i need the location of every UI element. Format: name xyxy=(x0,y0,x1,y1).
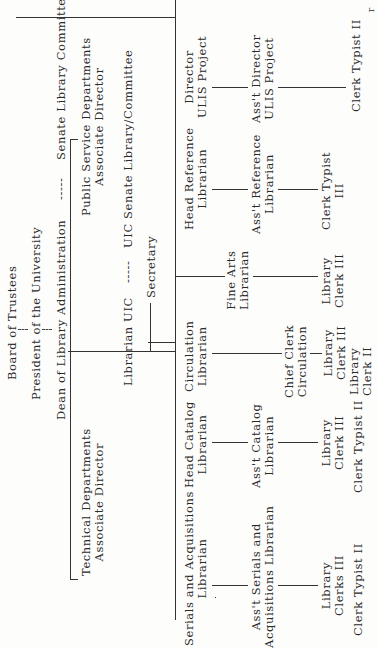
node-secretary: Secretary xyxy=(145,236,158,298)
circulation-line-2: Librarian xyxy=(196,320,209,392)
connector-serials-to-asst xyxy=(212,585,248,586)
org-chart-rotated-canvas: Board of Trustees President of the Unive… xyxy=(0,0,378,648)
node-circ-library-clerk-3: Library Clerk III xyxy=(322,326,348,380)
node-director-ulis: Director ULIS Project xyxy=(183,36,209,118)
node-uic-senate-library-committee: UIC Senate Library/Committee xyxy=(122,50,135,248)
connector-ulis-to-asst xyxy=(212,87,248,88)
connector-asst-ref-to-typist xyxy=(278,189,318,190)
node-librarian-uic: Librarian UIC xyxy=(122,297,135,386)
connector-dept-trunk xyxy=(150,351,176,352)
serials-line-2: Librarian xyxy=(196,491,209,646)
dean-senate-link: ----- xyxy=(55,178,68,200)
fine-arts-line-2: Librarian xyxy=(238,250,251,310)
connector-circ-to-chief xyxy=(212,353,282,354)
public-service-line-2: Associate Director xyxy=(93,37,106,216)
head-ref-line-2: Librarian xyxy=(196,127,209,230)
node-catalog-clerk-typist: Clerk Typist II xyxy=(352,400,365,493)
node-head-reference-librarian: Head Reference Librarian xyxy=(183,127,209,230)
node-catalog-library-clerk: Library Clerk III xyxy=(320,416,346,470)
connector-ref-to-asst xyxy=(212,189,248,190)
node-asst-director-ulis: Ass't Director ULIS Project xyxy=(250,34,276,123)
chief-clerk-line-2: Circulation xyxy=(296,325,309,398)
connector-catalog-to-asst xyxy=(212,442,248,443)
node-asst-reference-librarian: Ass't Reference Librarian xyxy=(250,134,276,234)
catalog-clerk-line-2: Clerk III xyxy=(333,416,346,470)
node-board-of-trustees: Board of Trustees xyxy=(6,266,19,380)
connector-board-president xyxy=(18,329,28,330)
node-reference-clerk-typist: Clerk Typist III xyxy=(320,152,346,230)
node-circulation-librarian: Circulation Librarian xyxy=(183,320,209,392)
connector-serials-asst xyxy=(215,597,216,598)
asst-serials-line-2: Acquisitions Librarian xyxy=(263,505,276,648)
node-technical-departments: Technical Departments Associate Director xyxy=(80,428,106,576)
connector-president-dean xyxy=(42,329,52,330)
uic-senate-link: ----- xyxy=(122,261,135,283)
node-ulis-clerk-typist: Clerk Typist II xyxy=(350,19,363,112)
node-president: President of the University xyxy=(30,227,43,400)
node-chief-clerk-circulation: Chief Clerk Circulation xyxy=(283,325,309,398)
asst-catalog-line-2: Librarian xyxy=(263,404,276,488)
connector-asst-catalog-to-clerk xyxy=(278,442,318,443)
node-serials-clerk-typist: Clerk Typist II xyxy=(352,543,365,636)
asst-ref-line-2: Librarian xyxy=(263,134,276,234)
node-serials-acquisitions-librarian: Serials and Acquisitions Librarian xyxy=(183,491,209,646)
node-dean: Dean of Library Administration xyxy=(55,220,68,420)
connector-secretary-v xyxy=(148,342,175,343)
node-asst-serials-acquisitions-librarian: Ass't Serials and Acquisitions Librarian xyxy=(250,505,276,648)
node-circ-library-clerk-2: Library Clerk II xyxy=(348,347,374,396)
circ-clerk2-line-2: Clerk II xyxy=(361,347,374,396)
connector-secretary-line xyxy=(150,303,151,343)
technical-line-2: Associate Director xyxy=(93,428,106,576)
ref-typist-line-2: III xyxy=(333,152,346,230)
node-asst-catalog-librarian: Ass't Catalog Librarian xyxy=(250,404,276,488)
page-mark: r xyxy=(366,8,376,12)
connector-finearts-branch xyxy=(175,276,225,277)
connector-asst-serials-to-clerks xyxy=(278,585,318,586)
connector-associate-directors-bar xyxy=(70,140,71,580)
director-ulis-line-2: ULIS Project xyxy=(196,36,209,118)
node-finearts-library-clerk: Library Clerk III xyxy=(320,254,346,308)
connector-dept-top-bar xyxy=(175,0,176,620)
finearts-clerk-line-2: Clerk III xyxy=(333,254,346,308)
connector-asst-ulis-to-typist xyxy=(278,87,346,88)
node-serials-library-clerks: Library Clerks III xyxy=(320,555,346,616)
connector-technical-drop xyxy=(70,579,78,580)
node-public-service-departments: Public Service Departments Associate Dir… xyxy=(80,37,106,216)
connector-librarian-down xyxy=(136,351,150,352)
node-head-catalog-librarian: Head Catalog Librarian xyxy=(183,401,209,488)
org-chart-page: Board of Trustees President of the Unive… xyxy=(0,0,378,648)
node-senate-library-committee: Senate Library Committee xyxy=(55,0,68,160)
connector-public-drop xyxy=(70,139,78,140)
connector-finearts-to-clerk xyxy=(253,276,318,277)
node-fine-arts-librarian: Fine Arts Librarian xyxy=(225,250,251,310)
head-catalog-line-2: Librarian xyxy=(196,401,209,488)
serials-clerks-line-2: Clerks III xyxy=(333,555,346,616)
asst-director-ulis-line-2: ULIS Project xyxy=(263,34,276,123)
connector-top-right-trunk xyxy=(16,17,176,18)
